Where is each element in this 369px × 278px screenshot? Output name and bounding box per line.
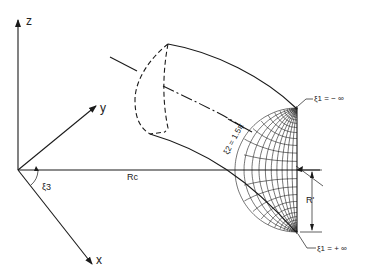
minor-radius-label: R' bbox=[306, 195, 314, 205]
xi1-bottom-leader bbox=[298, 234, 316, 248]
x-axis-label: x bbox=[96, 253, 102, 267]
torus-centerline-stub bbox=[110, 57, 137, 71]
z-axis-label: z bbox=[26, 14, 32, 28]
angle-arc-arrow-icon bbox=[34, 166, 39, 171]
toroidal-coordinates-diagram: z y x Rc ξ3 R' ξ1 = − ∞ ξ1 = + ∞ ξ2 = 1.… bbox=[0, 0, 369, 278]
mesh-ring bbox=[244, 179, 297, 186]
angle-label: ξ3 bbox=[42, 182, 51, 192]
xi1-bottom-label: ξ1 = + ∞ bbox=[317, 244, 347, 253]
mesh-ring bbox=[253, 195, 297, 212]
xi1-top-label: ξ1 = − ∞ bbox=[314, 94, 344, 103]
mesh-ring bbox=[261, 121, 297, 138]
mesh-ring bbox=[253, 129, 297, 146]
major-radius-label: Rc bbox=[127, 172, 138, 182]
mesh-ring bbox=[261, 202, 297, 219]
mesh-ring bbox=[244, 155, 297, 162]
back-cross-section-outer bbox=[135, 44, 168, 134]
xi2-label: ξ2 = 1.5π bbox=[222, 121, 246, 155]
y-axis bbox=[18, 106, 96, 170]
x-axis bbox=[18, 170, 92, 264]
angle-arc bbox=[31, 171, 38, 185]
y-axis-label: y bbox=[100, 101, 106, 115]
torus-upper-edge bbox=[168, 44, 296, 108]
dimension-arrow-down-icon bbox=[310, 224, 314, 231]
xi1-top-leader bbox=[298, 99, 313, 106]
